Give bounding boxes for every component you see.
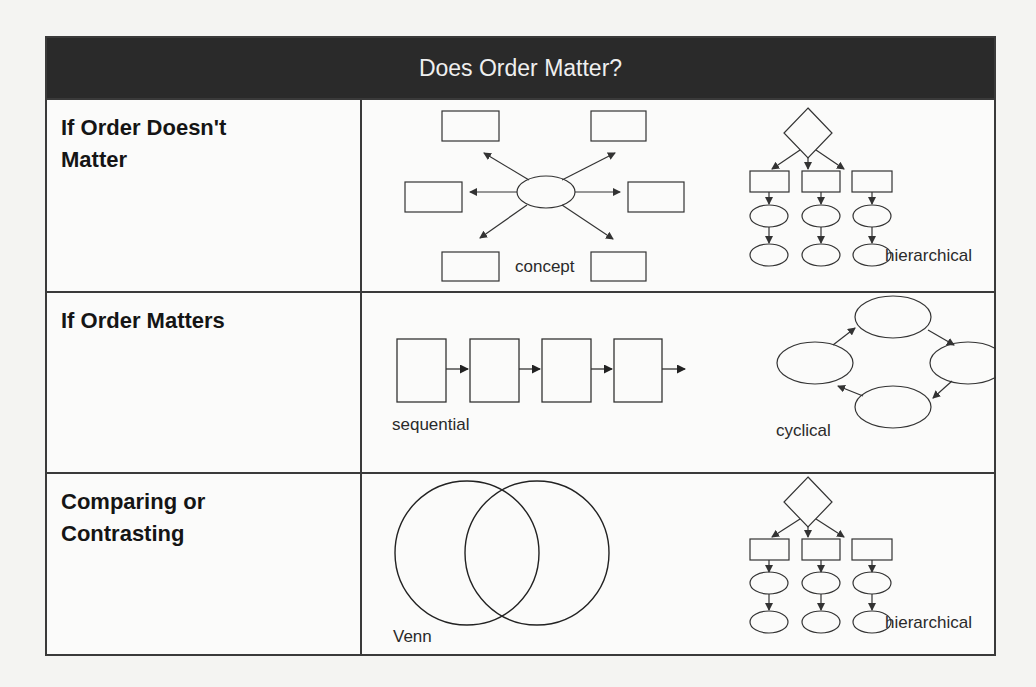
diagram-caption: sequential [392,415,470,434]
venn-and-hierarchical-diagrams: Venn [364,474,996,654]
row-diagrams: Venn [364,474,994,656]
hierarchical-diagram [750,108,892,266]
diagram-caption: Venn [393,627,432,646]
graphic-organizer-table: Does Order Matter? If Order Doesn't Matt… [45,36,996,656]
row-diagrams: concept [364,100,994,293]
row-comparing-contrasting: Comparing or Contrasting Venn [47,472,994,656]
row-label-line: Contrasting [61,518,360,550]
row-label-line: If Order Doesn't [61,112,360,144]
hierarchical-diagram [750,477,892,633]
row-diagrams: sequential cyclical [364,293,994,474]
row-label-line: Comparing or [61,486,360,518]
diagram-caption: hierarchical [885,613,972,632]
row-order-matters: If Order Matters [47,291,994,474]
venn-diagram [395,481,609,625]
row-label: If Order Matters [47,293,362,474]
concept-and-hierarchical-diagrams: concept [364,100,996,291]
row-label: If Order Doesn't Matter [47,100,362,293]
concept-map-diagram [405,111,684,281]
row-order-doesnt-matter: If Order Doesn't Matter [47,98,994,293]
row-label-line: Matter [61,144,360,176]
diagram-caption: cyclical [776,421,831,440]
diagram-caption: concept [515,257,575,276]
sequential-diagram [397,339,685,402]
sequential-and-cyclical-diagrams: sequential cyclical [364,293,996,472]
row-label: Comparing or Contrasting [47,474,362,656]
diagram-caption: hierarchical [885,246,972,265]
cyclical-diagram [777,296,996,428]
row-label-line: If Order Matters [61,305,360,337]
table-title: Does Order Matter? [47,38,994,98]
